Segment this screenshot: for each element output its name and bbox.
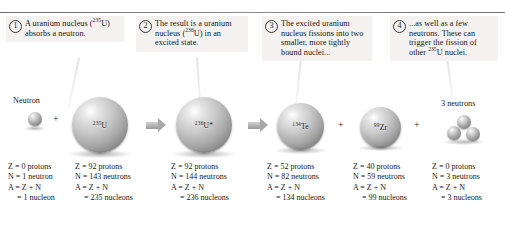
top-divider-rule [0,12,505,13]
leader-line-1 [67,58,80,109]
uranium-236-sphere-label: 236U* [195,121,213,130]
data-z: Z = 40 protons [353,162,407,172]
uranium-236-sphere: 236U* [176,97,232,153]
uranium-236-shadow [174,150,234,158]
caption-step-1-text: A uranium nucleus (235U) absorbs a neutr… [25,19,120,38]
plus-operator-2: + [338,119,344,130]
neutron-cluster-shadow [444,139,484,145]
caption-step-4-text: ...as well as a few neutrons. These can … [409,19,494,57]
uranium-235-sphere: 235U [72,97,128,153]
plus-operator-3: + [414,119,420,130]
data-total: = 134 nucleons [267,193,325,203]
data-z: Z = 52 protons [267,162,325,172]
zirconium-99-sphere-label: 99Zr [374,123,387,132]
data-z: Z = 92 protons [75,162,133,172]
data-n: N = 144 neutrons [171,172,229,182]
data-column-uranium-235: Z = 92 protons N = 143 neutrons A = Z + … [75,162,133,204]
data-a: A = Z + N [75,183,133,193]
step-number-3: 3 [265,20,278,33]
data-column-uranium-236: Z = 92 protons N = 144 neutrons A = Z + … [171,162,229,204]
data-z: Z = 92 protons [171,162,229,172]
step-number-4: 4 [393,20,406,33]
reaction-arrow-2 [248,118,269,133]
data-column-zirconium-99: Z = 40 protons N = 59 neutrons A = Z + N… [353,162,407,204]
tellurium-134-sphere: 134Te [277,103,324,150]
data-a: A = Z + N [171,183,229,193]
tellurium-134-sphere-label: 134Te [292,122,308,131]
tellurium-134-shadow [276,147,326,154]
data-total: = 1 nucleon [8,193,55,203]
data-column-neutron: Z = 0 protons N = 1 neutron A = Z + N = … [8,162,55,204]
caption-step-2: 2 The result is a uranium nucleus (236U)… [136,16,248,52]
uranium-235-shadow [70,150,130,158]
data-total: = 3 nucleons [432,193,482,203]
fission-diagram: 1 A uranium nucleus (235U) absorbs a neu… [0,0,505,232]
data-total: = 99 nucleons [353,193,407,203]
caption-step-1: 1 A uranium nucleus (235U) absorbs a neu… [6,16,124,42]
reaction-arrow-1 [146,118,167,133]
data-a: A = Z + N [432,183,482,193]
step-number-2: 2 [139,20,152,33]
data-total: = 236 nucleons [171,193,229,203]
data-z: Z = 0 protons [8,162,55,172]
data-z: Z = 0 protons [432,162,482,172]
caption-step-2-text: The result is a uranium nucleus (236U) i… [155,19,244,48]
data-n: N = 3 neutrons [432,172,482,182]
data-total: = 235 nucleons [75,193,133,203]
data-n: N = 143 neutrons [75,172,133,182]
caption-step-4: 4 ...as well as a few neutrons. These ca… [390,16,498,61]
caption-step-3-text: The excited uranium nucleus fissions int… [281,19,368,57]
data-n: N = 59 neutrons [353,172,407,182]
three-neutrons-label: 3 neutrons [441,99,475,108]
leader-line-4 [446,58,454,98]
zirconium-99-shadow [359,145,403,151]
data-column-tellurium-134: Z = 52 protons N = 82 neutrons A = Z + N… [267,162,325,204]
data-a: A = Z + N [353,183,407,193]
zirconium-99-sphere: 99Zr [360,107,401,148]
uranium-235-sphere-label: 235U [93,121,107,130]
neutron-shadow [25,126,45,131]
caption-step-3: 3 The excited uranium nucleus fissions i… [262,16,372,61]
plus-operator-1: + [53,113,59,124]
data-n: N = 1 neutron [8,172,55,182]
data-a: A = Z + N [267,183,325,193]
neutron-label: Neutron [13,96,40,105]
data-n: N = 82 neutrons [267,172,325,182]
neutron-sphere [28,112,42,126]
data-a: A = Z + N [8,183,55,193]
data-column-three-neutrons: Z = 0 protons N = 3 neutrons A = Z + N =… [432,162,482,204]
leader-line-3 [295,58,302,108]
step-number-1: 1 [9,20,22,33]
neutron-cluster-left [447,126,461,140]
